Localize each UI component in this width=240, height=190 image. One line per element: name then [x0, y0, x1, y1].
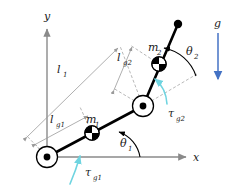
- m2-subscript: 2: [156, 49, 162, 57]
- tau-g1-arc: [70, 156, 80, 184]
- label-lg1: l g1: [50, 113, 65, 129]
- elbow-joint: [133, 96, 154, 117]
- diagram-canvas: y x g l 1 l g1 l g2 m 1 m 2: [0, 0, 240, 190]
- label-theta2: θ 2: [186, 45, 199, 61]
- lg2-symbol: l: [117, 51, 121, 64]
- tau-g1-subscript: g1: [93, 174, 102, 182]
- label-tau-g2: τ g2: [168, 107, 185, 123]
- theta1-symbol: θ: [120, 137, 127, 150]
- label-l1: l 1: [57, 63, 67, 79]
- gravity-label: g: [214, 17, 221, 30]
- elbow-joint-pin: [140, 103, 147, 110]
- m1-subscript: 1: [95, 121, 99, 129]
- y-axis-label: y: [43, 10, 51, 23]
- torque-tau-g1: [70, 156, 80, 184]
- theta2-symbol: θ: [186, 45, 193, 58]
- mechanics-diagram: y x g l 1 l g1 l g2 m 1 m 2: [0, 0, 240, 190]
- tau-g2-subscript: g2: [176, 115, 185, 123]
- label-m2: m 2: [148, 41, 162, 57]
- tau-g2-symbol: τ: [168, 107, 175, 120]
- dim-line-l1: [27, 48, 118, 137]
- tau-g2-arc: [155, 79, 167, 104]
- label-lg2: l g2: [117, 51, 132, 67]
- base-joint-pin: [44, 154, 51, 161]
- l1-subscript: 1: [63, 71, 67, 79]
- torque-tau-g2: [155, 79, 167, 104]
- end-effector-tip: [174, 20, 182, 28]
- label-tau-g1: τ g1: [85, 166, 102, 182]
- x-axis-label: x: [193, 151, 200, 164]
- base-joint: [37, 147, 58, 168]
- theta2-subscript: 2: [193, 53, 199, 61]
- lg1-symbol: l: [50, 113, 54, 126]
- theta1-subscript: 1: [128, 145, 132, 153]
- tau-g1-symbol: τ: [85, 166, 92, 179]
- center-of-mass-marker-2: [152, 57, 166, 71]
- lg2-subscript: g2: [123, 59, 132, 67]
- l1-symbol: l: [57, 63, 61, 76]
- lg1-subscript: g1: [56, 121, 65, 129]
